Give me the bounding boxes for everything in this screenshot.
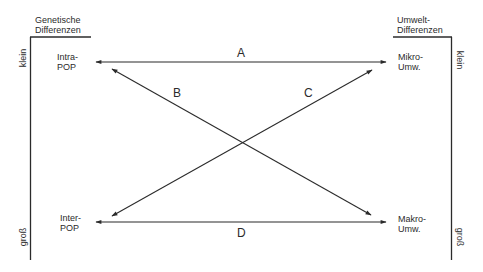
edge-label-c: C bbox=[304, 87, 313, 99]
node-intra-pop-line2: POP bbox=[57, 62, 76, 72]
node-makro-umw-line1: Makro- bbox=[398, 214, 426, 224]
node-makro-umw: Makro-Umw. bbox=[398, 214, 426, 234]
right-axis-header: Umwelt-Differenzen bbox=[397, 15, 443, 35]
node-mikro-umw-line1: Mikro- bbox=[398, 52, 423, 62]
node-mikro-umw: Mikro-Umw. bbox=[398, 52, 423, 72]
right-header-line1: Umwelt- bbox=[397, 15, 430, 25]
edge-label-a: A bbox=[237, 47, 245, 59]
left-header-line2: Differenzen bbox=[35, 25, 81, 35]
edge-label-b: B bbox=[173, 87, 181, 99]
edge-b-arrow bbox=[112, 69, 371, 215]
left-header-line1: Genetische bbox=[35, 15, 81, 25]
left-axis-top-label: klein bbox=[18, 44, 28, 72]
right-axis-bottom-label: groß bbox=[455, 223, 465, 251]
right-axis-top-label: klein bbox=[455, 46, 465, 74]
edge-label-d: D bbox=[237, 227, 246, 239]
left-axis-bottom-label: groß bbox=[18, 223, 28, 251]
right-header-line2: Differenzen bbox=[397, 25, 443, 35]
node-intra-pop: Intra-POP bbox=[57, 52, 78, 72]
node-intra-pop-line1: Intra- bbox=[57, 52, 78, 62]
node-makro-umw-line2: Umw. bbox=[398, 224, 421, 234]
node-inter-pop-line1: Inter- bbox=[60, 213, 81, 223]
node-inter-pop: Inter-POP bbox=[60, 213, 81, 233]
node-mikro-umw-line2: Umw. bbox=[398, 62, 421, 72]
node-inter-pop-line2: POP bbox=[60, 223, 79, 233]
left-axis-header: GenetischeDifferenzen bbox=[35, 15, 81, 35]
